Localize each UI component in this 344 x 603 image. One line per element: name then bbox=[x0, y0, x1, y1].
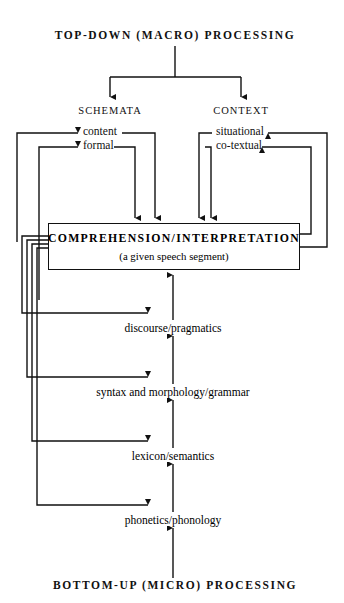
edge-cotextual-down bbox=[205, 147, 211, 218]
comprehension-interpretation-box: COMPREHENSION/INTERPRETATION (a given sp… bbox=[48, 223, 300, 270]
comprehension-box-title: COMPREHENSION/INTERPRETATION bbox=[48, 231, 300, 246]
tier-lexicon-semantics: lexicon/semantics bbox=[129, 450, 217, 462]
diagram-wiring bbox=[0, 0, 344, 603]
branch-label-context: CONTEXT bbox=[213, 106, 269, 117]
title-bottom-up: BOTTOM-UP (MICRO) PROCESSING bbox=[53, 580, 297, 592]
branch-label-schemata: SCHEMATA bbox=[78, 106, 141, 117]
node-formal: formal bbox=[83, 140, 114, 152]
node-co-textual: co-textual bbox=[216, 140, 262, 152]
tier-discourse-pragmatics: discourse/pragmatics bbox=[121, 322, 224, 334]
edge-box-to-lexicon bbox=[32, 244, 148, 441]
edge-loop-to-cotextual bbox=[262, 147, 311, 234]
comprehension-box-subtitle: (a given speech segment) bbox=[119, 250, 228, 262]
diagram-canvas: TOP-DOWN (MACRO) PROCESSING SCHEMATA CON… bbox=[0, 0, 344, 603]
tier-phonetics-phonology: phonetics/phonology bbox=[122, 514, 224, 526]
node-content: content bbox=[83, 126, 117, 138]
edge-situational-down bbox=[199, 133, 212, 218]
node-situational: situational bbox=[216, 126, 264, 138]
edge-content-down bbox=[122, 133, 155, 218]
tier-syntax-morphology-grammar: syntax and morphology/grammar bbox=[93, 386, 252, 398]
edge-formal-down bbox=[114, 147, 135, 218]
title-top-down: TOP-DOWN (MACRO) PROCESSING bbox=[55, 30, 296, 42]
